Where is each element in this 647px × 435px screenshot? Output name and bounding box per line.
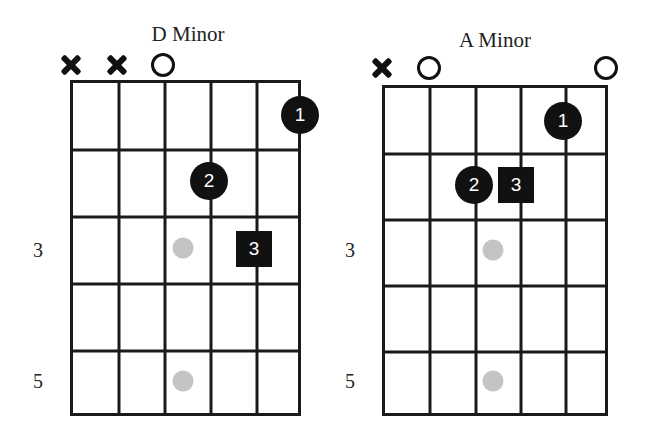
chord-diagram-stage: D Minor12335A Minor12335 [0, 0, 647, 435]
fret-line [385, 218, 605, 221]
finger-marker-1: 1 [281, 96, 319, 134]
muted-string-x-icon [106, 54, 128, 76]
finger-marker-1: 1 [544, 102, 582, 140]
open-string-circle-icon [594, 56, 618, 80]
fret-line [73, 215, 298, 218]
finger-marker-2: 2 [455, 166, 493, 204]
fret-number-label: 5 [345, 370, 355, 393]
chord-title: A Minor [459, 28, 531, 53]
finger-marker-2: 2 [190, 162, 228, 200]
muted-string-x-icon [60, 54, 82, 76]
string-line [209, 83, 212, 413]
fret-line [385, 284, 605, 287]
string-line [519, 88, 522, 413]
open-string-circle-icon [151, 53, 175, 77]
fret-number-label: 3 [33, 239, 43, 262]
fret-inlay-dot [173, 238, 194, 259]
string-line [163, 83, 166, 413]
fret-line [73, 349, 298, 352]
fret-number-label: 3 [345, 239, 355, 262]
fret-inlay-dot [173, 371, 194, 392]
string-line [474, 88, 477, 413]
string-line [428, 88, 431, 413]
chord-title: D Minor [152, 22, 225, 47]
finger-marker-3: 3 [498, 167, 534, 203]
fret-line [385, 350, 605, 353]
finger-marker-3: 3 [236, 231, 272, 267]
muted-string-x-icon [371, 57, 393, 79]
open-string-circle-icon [417, 56, 441, 80]
string-line [117, 83, 120, 413]
fret-inlay-dot [483, 240, 504, 261]
fret-line [73, 148, 298, 151]
fret-number-label: 5 [33, 370, 43, 393]
fret-line [385, 152, 605, 155]
fret-inlay-dot [483, 371, 504, 392]
fret-line [73, 282, 298, 285]
